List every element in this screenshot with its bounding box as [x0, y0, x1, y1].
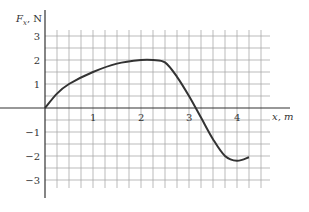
y-tick-label: −1: [25, 127, 40, 138]
y-tick-label: −2: [25, 151, 40, 162]
y-tick-label: 3: [34, 31, 40, 42]
x-tick-label: 1: [90, 112, 96, 123]
x-tick-label: 4: [234, 112, 240, 123]
y-tick-label: 2: [34, 55, 40, 66]
x-axis-label: x, m: [272, 111, 293, 122]
y-tick-label: −3: [25, 175, 40, 186]
grid: [45, 30, 270, 188]
data-curve: [45, 60, 249, 161]
chart: 1234 321−1−2−3 Fx, N x, m: [0, 0, 309, 212]
x-tick-label: 3: [186, 112, 192, 123]
y-axis-label: Fx, N: [15, 13, 42, 27]
y-tick-label: 1: [34, 79, 40, 90]
x-tick-label: 2: [138, 112, 144, 123]
